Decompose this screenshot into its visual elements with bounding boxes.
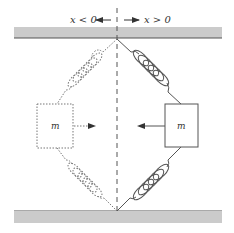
- label-x-positive: x > 0: [144, 14, 171, 25]
- right-force-arrow-icon: [137, 123, 145, 129]
- left-mass-label: m: [51, 121, 60, 131]
- left-displaced-system: [37, 39, 117, 211]
- right-mass-label: m: [177, 121, 186, 131]
- left-lower-spring: [57, 148, 117, 211]
- label-x-negative: x < 0: [70, 14, 97, 25]
- top-wall: [14, 27, 222, 38]
- direction-labels: x < 0 x > 0: [70, 14, 171, 25]
- left-force-arrow-icon: [88, 123, 96, 129]
- right-upper-spring: [117, 39, 181, 104]
- right-lower-spring: [117, 147, 181, 211]
- right-displaced-system: [117, 39, 198, 211]
- spring-mass-diagram: x < 0 x > 0: [0, 0, 234, 233]
- bottom-wall: [14, 211, 222, 223]
- left-upper-spring: [57, 39, 117, 104]
